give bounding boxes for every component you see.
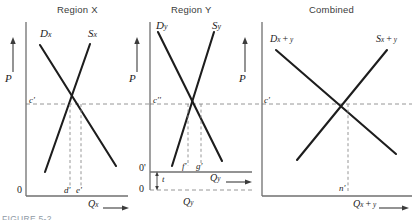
panel-combined: [242, 22, 412, 211]
price-label-c-prime-x: c': [29, 96, 35, 105]
axis-label-price-y: P: [129, 73, 136, 84]
price-arrow-y: [134, 37, 139, 72]
offset-t-arrow: [155, 172, 159, 191]
axis-label-quantity-y-primary: QyQy: [210, 173, 220, 183]
price-label-c-prime-combined: c': [264, 96, 270, 105]
origin-label-x: 0: [17, 185, 22, 195]
offset-label-t: t: [162, 175, 165, 184]
quantity-marker-g-prime: g': [196, 162, 202, 171]
panel-region-y: [134, 22, 252, 191]
panel-title-combined: Combined: [309, 4, 354, 15]
quantity-arrow-x: [103, 205, 129, 210]
curve-label-demand-combined: Dx+yDx + y: [270, 34, 293, 44]
quantity-marker-d-prime: d': [64, 186, 70, 195]
origin-label-y-secondary: 0: [139, 184, 144, 194]
curve-label-supply-y: SySy: [212, 20, 221, 31]
quantity-arrow-y-primary: [226, 179, 252, 184]
diagram-canvas: [0, 0, 419, 220]
axis-label-quantity-x: QxQx: [88, 199, 98, 209]
demand-curve-combined: [276, 50, 396, 154]
quantity-marker-e-prime: e': [76, 186, 82, 195]
curve-label-supply-combined: Sx+ySx + y: [376, 34, 397, 44]
figure-supply-demand-regions: Region X Region Y Combined P DxDx SxSx c…: [0, 0, 419, 220]
supply-curve-combined: [297, 50, 387, 160]
price-arrow-x: [10, 37, 15, 72]
axis-label-quantity-y-secondary: QyQy: [183, 197, 193, 207]
price-label-c-doubleprime-y: c'': [153, 96, 161, 105]
curve-label-supply-x: SxSx: [88, 28, 97, 39]
quantity-arrow-combined: [379, 205, 409, 210]
quantity-marker-n-prime: n': [339, 184, 345, 193]
supply-curve-y: [172, 32, 214, 166]
axis-label-price-x: P: [5, 73, 12, 84]
origin-label-y-primary: 0': [139, 163, 146, 173]
axis-label-price-combined: P: [239, 73, 246, 84]
price-arrow-combined: [242, 37, 247, 72]
quantity-marker-f-prime: f': [182, 162, 186, 171]
demand-curve-x: [40, 45, 116, 166]
panel-title-region-x: Region X: [57, 4, 98, 15]
panel-title-region-y: Region Y: [171, 4, 212, 15]
curve-label-demand-x: DxDx: [40, 28, 51, 39]
curve-label-demand-y: DyDy: [156, 20, 167, 31]
panel-region-x: [10, 22, 129, 211]
demand-curve-y: [158, 32, 222, 161]
figure-caption: FIGURE 5-2: [2, 214, 52, 220]
axis-label-quantity-combined: Qx+yQx + y: [353, 199, 376, 209]
